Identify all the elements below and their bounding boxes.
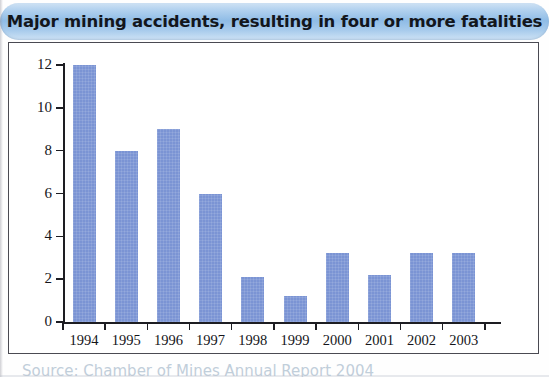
y-tick-mark: [56, 107, 64, 108]
x-tick-mark: [484, 322, 485, 330]
y-tick-label: 0: [20, 313, 52, 329]
x-tick-mark: [358, 322, 359, 330]
x-tick-label: 1994: [60, 332, 108, 349]
y-tick-mark: [56, 193, 64, 194]
x-tick-mark: [231, 322, 232, 330]
x-tick-mark: [189, 322, 190, 330]
bar: [241, 277, 264, 322]
bar: [326, 253, 349, 322]
y-tick-label-text: 8: [26, 142, 52, 159]
y-tick-label: 6: [20, 185, 52, 201]
y-tick-mark: [56, 64, 64, 65]
bar: [284, 296, 307, 322]
bar: [157, 129, 180, 322]
y-tick-label-text: 0: [26, 313, 52, 330]
y-tick-label: 12: [20, 56, 52, 72]
y-tick-label-text: 12: [26, 56, 52, 73]
chart-page: Major mining accidents, resulting in fou…: [0, 0, 549, 377]
x-tick-label: 1997: [187, 332, 235, 349]
y-tick-label: 10: [20, 99, 52, 115]
title-banner: Major mining accidents, resulting in fou…: [0, 3, 549, 40]
bar: [199, 194, 222, 323]
x-tick-label: 1999: [271, 332, 319, 349]
y-tick-label-text: 2: [26, 270, 52, 287]
x-tick-mark: [104, 322, 105, 330]
x-tick-mark: [400, 322, 401, 330]
bar: [452, 253, 475, 322]
x-tick-label: 2003: [440, 332, 488, 349]
y-tick-label-text: 6: [26, 185, 52, 202]
x-tick-label: 2002: [398, 332, 446, 349]
x-tick-label: 2000: [313, 332, 361, 349]
x-tick-mark: [147, 322, 148, 330]
y-tick-label: 4: [20, 227, 52, 243]
x-tick-label: 1998: [229, 332, 277, 349]
y-tick-label-text: 4: [26, 227, 52, 244]
x-tick-mark: [273, 322, 274, 330]
x-tick-label: 1996: [144, 332, 192, 349]
y-tick-mark: [56, 150, 64, 151]
x-tick-mark: [442, 322, 443, 330]
bar: [368, 275, 391, 322]
page-title: Major mining accidents, resulting in fou…: [0, 3, 549, 40]
x-tick-mark: [315, 322, 316, 330]
bar: [73, 65, 96, 322]
bar: [115, 151, 138, 322]
bar: [410, 253, 433, 322]
y-tick-label: 2: [20, 270, 52, 286]
y-tick-mark: [56, 236, 64, 237]
x-axis-line: [63, 322, 501, 324]
y-tick-label-text: 10: [26, 99, 52, 116]
y-tick-label: 8: [20, 142, 52, 158]
x-tick-label: 2001: [355, 332, 403, 349]
x-tick-label: 1995: [102, 332, 150, 349]
y-tick-mark: [56, 278, 64, 279]
x-tick-mark: [62, 322, 63, 330]
scan-edge-left: [0, 0, 3, 377]
